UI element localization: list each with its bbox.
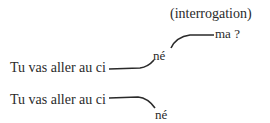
rising-curve-2 bbox=[171, 35, 214, 48]
rising-curve-1 bbox=[109, 60, 154, 69]
intonation-curves bbox=[0, 0, 270, 123]
falling-curve bbox=[109, 97, 155, 108]
